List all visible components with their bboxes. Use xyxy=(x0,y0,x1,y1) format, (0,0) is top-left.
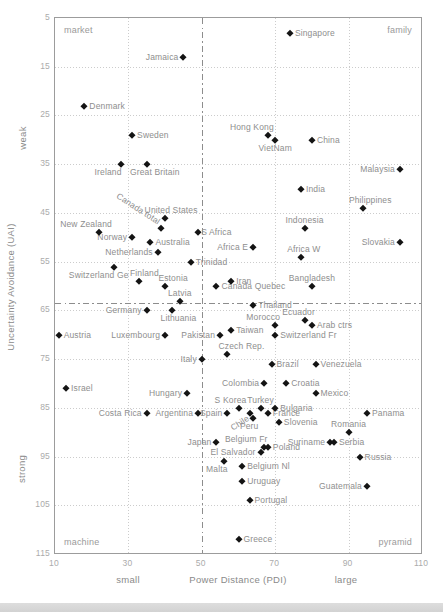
data-point-marker xyxy=(364,483,370,489)
y-tick-label: 85 xyxy=(20,403,50,412)
data-point-label: Romania xyxy=(331,420,366,429)
data-point-label: Greece xyxy=(244,535,273,544)
scatter-chart: market family machine pyramid SingaporeJ… xyxy=(0,0,443,600)
data-point-label: Norway xyxy=(97,233,127,242)
data-point-marker xyxy=(265,444,271,450)
data-point-marker xyxy=(63,385,69,391)
y-tick-label: 105 xyxy=(20,500,50,509)
data-point-marker xyxy=(228,327,234,333)
data-point-label: S Africa xyxy=(201,228,232,237)
data-point-label: Taiwan xyxy=(236,326,263,335)
data-point-label: Malta xyxy=(206,465,228,474)
data-point-marker xyxy=(272,322,278,328)
x-axis-title: Power Distance (PDI) xyxy=(189,575,286,585)
data-point-label: Australia xyxy=(155,238,189,247)
data-point-marker xyxy=(235,536,241,542)
data-point-label: El Salvador xyxy=(210,447,255,456)
data-point-marker xyxy=(188,258,194,264)
window-bottom-bar xyxy=(0,603,443,612)
data-point-marker xyxy=(55,331,61,337)
data-point-marker xyxy=(272,331,278,337)
data-point-marker xyxy=(276,419,282,425)
data-point-label: Panama xyxy=(372,408,405,417)
data-point-label: Finland xyxy=(130,269,159,278)
data-point-marker xyxy=(235,405,241,411)
data-point-label: Latvia xyxy=(168,288,192,297)
data-point-label: Uruguay xyxy=(247,477,280,486)
y-gridline xyxy=(55,505,421,506)
data-point-label: New Zealand xyxy=(60,220,112,229)
y-gridline xyxy=(55,213,421,214)
data-point-label: Singapore xyxy=(295,28,335,37)
data-point-marker xyxy=(224,409,230,415)
data-point-marker xyxy=(309,322,315,328)
data-point-marker xyxy=(81,102,87,108)
data-point-label: Sweden xyxy=(137,131,169,140)
data-point-marker xyxy=(287,29,293,35)
data-point-label: Ecuador xyxy=(282,308,315,317)
data-point-label: Spain xyxy=(200,408,223,417)
corner-label-family: family xyxy=(387,25,412,35)
y-tick-label: 115 xyxy=(20,549,50,558)
y-tick-label: 5 xyxy=(20,13,50,22)
y-tick-label: 55 xyxy=(20,256,50,265)
data-point-marker xyxy=(261,380,267,386)
data-point-marker xyxy=(257,405,263,411)
data-point-marker xyxy=(360,205,366,211)
data-point-label: Slovakia xyxy=(362,238,395,247)
data-point-marker xyxy=(162,331,168,337)
data-point-label: Pakistan xyxy=(181,330,215,339)
data-point-label: Hong Kong xyxy=(230,122,274,131)
data-point-marker xyxy=(268,361,274,367)
data-point-label: Morocco xyxy=(246,312,280,321)
data-point-marker xyxy=(184,390,190,396)
data-point-marker xyxy=(246,497,252,503)
data-point-label: Venezuela xyxy=(321,360,362,369)
data-point-label: Estonia xyxy=(158,274,187,283)
data-point-marker xyxy=(298,185,304,191)
data-point-marker xyxy=(217,331,223,337)
y-axis-title: Uncertainty Avoidance (UAI) xyxy=(6,223,16,350)
y-axis-qualifier-weak: weak xyxy=(18,126,28,149)
data-point-label: France xyxy=(273,408,300,417)
data-point-label: Colombia xyxy=(222,379,259,388)
data-point-label: Mexico xyxy=(321,389,349,398)
data-point-label: Great Britain xyxy=(130,168,180,177)
data-point-label: Luxembourg xyxy=(111,330,160,339)
data-point-marker xyxy=(213,439,219,445)
data-point-label: Poland xyxy=(273,443,300,452)
data-point-marker xyxy=(129,132,135,138)
data-point-marker xyxy=(180,54,186,60)
y-tick-label: 75 xyxy=(20,354,50,363)
data-point-label: Arab ctrs xyxy=(317,321,352,330)
data-point-label: Serbia xyxy=(339,438,364,447)
data-point-marker xyxy=(356,453,362,459)
data-point-marker xyxy=(129,234,135,240)
y-tick-label: 35 xyxy=(20,159,50,168)
data-point-label: Africa W xyxy=(287,244,320,253)
x-tick-label: 90 xyxy=(343,559,353,568)
y-tick-label: 65 xyxy=(20,305,50,314)
data-point-label: Trinidad xyxy=(196,257,228,266)
data-point-label: Germany xyxy=(106,306,142,315)
data-point-label: Switzerland Ge xyxy=(69,271,129,280)
data-point-marker xyxy=(397,239,403,245)
data-point-marker xyxy=(312,361,318,367)
data-point-marker xyxy=(144,409,150,415)
data-point-label: Netherlands xyxy=(105,248,152,257)
data-point-marker xyxy=(309,137,315,143)
data-point-marker xyxy=(301,224,307,230)
data-point-marker xyxy=(239,478,245,484)
x-axis-qualifier-large: large xyxy=(335,575,358,585)
y-gridline xyxy=(55,359,421,360)
data-point-marker xyxy=(265,409,271,415)
data-point-marker xyxy=(283,380,289,386)
x-gridline xyxy=(128,18,129,553)
y-tick-label: 15 xyxy=(20,61,50,70)
x-gridline xyxy=(349,18,350,553)
data-point-label: Croatia xyxy=(291,379,319,388)
corner-label-machine: machine xyxy=(64,537,99,547)
data-point-marker xyxy=(345,429,351,435)
data-point-label: S Korea xyxy=(215,395,247,404)
data-point-marker xyxy=(301,317,307,323)
